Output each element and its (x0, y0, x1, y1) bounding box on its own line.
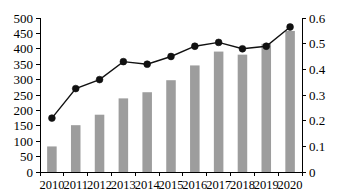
x-axis-tick-marks (40, 172, 302, 176)
bar (262, 44, 272, 172)
bar-series-group (47, 31, 295, 172)
bar (214, 52, 224, 172)
left-tick-label: 100 (14, 134, 34, 149)
right-axis-tick-marks (302, 18, 306, 172)
left-axis-tick-labels: 050100150200250300350400450500 (14, 11, 34, 180)
line-marker (144, 61, 151, 68)
left-axis-tick-marks (36, 18, 40, 172)
x-category-label: 2013 (111, 178, 136, 192)
right-axis-tick-labels: 00.10.20.30.40.50.6 (309, 11, 326, 180)
line-marker (215, 39, 222, 46)
left-tick-label: 0 (27, 165, 34, 180)
bar (119, 98, 129, 172)
line-marker (263, 43, 270, 50)
line-marker (191, 43, 198, 50)
line-marker (239, 45, 246, 52)
x-category-label: 2011 (63, 178, 88, 192)
x-category-label: 2015 (159, 178, 184, 192)
x-axis: 2010201120122013201420152016201720182019… (39, 172, 302, 192)
left-tick-label: 500 (14, 11, 34, 26)
chart-plot-area: 050100150200250300350400450500 00.10.20.… (0, 0, 342, 196)
line-marker (96, 76, 103, 83)
right-tick-label: 0.1 (309, 139, 325, 154)
x-category-label: 2010 (39, 178, 64, 192)
bar (285, 31, 295, 172)
right-tick-label: 0.4 (309, 62, 326, 77)
left-tick-label: 450 (14, 26, 34, 41)
left-tick-label: 200 (14, 103, 34, 118)
right-tick-label: 0.2 (309, 113, 325, 128)
line-marker (120, 58, 127, 65)
bar (95, 115, 105, 172)
x-category-label: 2020 (278, 178, 303, 192)
line-marker (49, 115, 56, 122)
bar (142, 92, 152, 172)
line-marker (72, 85, 79, 92)
left-tick-label: 300 (14, 72, 34, 87)
bar (238, 55, 248, 172)
line-marker (287, 24, 294, 31)
right-axis: 00.10.20.30.40.50.6 (302, 11, 326, 180)
bar (166, 80, 176, 172)
x-category-label: 2018 (230, 178, 255, 192)
left-tick-label: 50 (20, 149, 33, 164)
x-category-label: 2016 (182, 178, 207, 192)
left-tick-label: 250 (14, 88, 34, 103)
x-category-label: 2014 (135, 178, 161, 192)
right-tick-label: 0.6 (309, 11, 326, 26)
x-category-label: 2012 (87, 178, 112, 192)
left-tick-label: 150 (14, 118, 34, 133)
x-axis-category-labels: 2010201120122013201420152016201720182019… (39, 178, 302, 192)
left-tick-label: 400 (14, 41, 34, 56)
right-tick-label: 0 (309, 165, 316, 180)
right-tick-label: 0.3 (309, 88, 325, 103)
line-marker (168, 53, 175, 60)
chart-container: 050100150200250300350400450500 00.10.20.… (0, 0, 342, 196)
x-category-label: 2017 (206, 178, 231, 192)
x-category-label: 2019 (254, 178, 279, 192)
left-tick-label: 350 (14, 57, 34, 72)
right-tick-label: 0.5 (309, 36, 325, 51)
bar (190, 65, 200, 172)
bar (71, 125, 81, 172)
bar (47, 146, 57, 172)
left-axis: 050100150200250300350400450500 (14, 11, 41, 180)
